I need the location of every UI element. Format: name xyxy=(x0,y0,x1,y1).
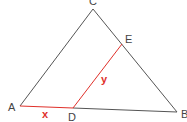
label-e: E xyxy=(125,33,132,45)
label-x: x xyxy=(42,108,49,120)
segment-de xyxy=(73,44,122,108)
label-a: A xyxy=(8,101,16,113)
segment-cb xyxy=(93,9,177,112)
label-y: y xyxy=(101,73,108,85)
segment-ac xyxy=(20,9,93,106)
segment-db xyxy=(73,108,177,112)
label-c: C xyxy=(89,0,97,7)
label-d: D xyxy=(68,111,76,122)
triangle-diagram: C E A D B x y xyxy=(0,0,187,122)
label-b: B xyxy=(181,108,187,120)
